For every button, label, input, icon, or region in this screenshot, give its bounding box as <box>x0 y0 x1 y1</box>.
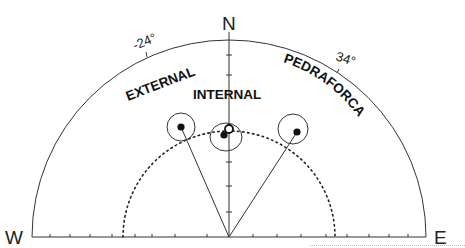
tick-minus-24 <box>146 52 147 57</box>
cropped-caption-line <box>310 241 465 248</box>
confidence-circle-pedraforca <box>278 114 308 144</box>
vector-pedraforca <box>229 132 297 237</box>
mean-direction-pedraforca <box>293 128 300 135</box>
angle-label-34: 34° <box>334 49 357 69</box>
angle-label-minus-24: -24° <box>131 30 159 53</box>
site-label-external: EXTERNAL <box>124 64 197 104</box>
vector-external <box>181 127 229 237</box>
site-label-pedraforca-path: PEDRAFORCA <box>282 51 368 120</box>
site-label-internal: INTERNAL <box>193 87 261 102</box>
mean-direction-internal-open <box>225 125 233 133</box>
site-label-pedraforca: PEDRAFORCA <box>282 51 368 120</box>
label-west: W <box>5 227 23 248</box>
label-north: N <box>222 13 236 34</box>
mean-direction-internal-filled <box>220 131 227 138</box>
mean-direction-external <box>177 123 184 130</box>
stereonet-diagram: N W E -24° 34° EXTERNAL INTERNAL PEDRAFO… <box>0 0 465 248</box>
